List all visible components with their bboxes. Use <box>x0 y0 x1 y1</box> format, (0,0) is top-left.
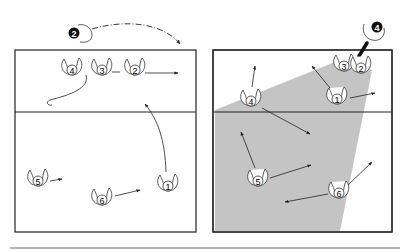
svg-text:3: 3 <box>99 66 104 76</box>
svg-text:6: 6 <box>99 196 104 206</box>
svg-text:3: 3 <box>341 62 346 72</box>
svg-text:6: 6 <box>336 189 341 199</box>
svg-text:1: 1 <box>165 182 170 192</box>
right-panel: 4 3 2 4 1 5 6 <box>213 22 392 233</box>
svg-text:5: 5 <box>35 177 40 187</box>
svg-text:4: 4 <box>69 66 74 76</box>
left-server-2: 2 <box>69 25 93 43</box>
svg-text:2: 2 <box>71 29 76 39</box>
svg-text:5: 5 <box>255 177 260 187</box>
right-server-4: 4 <box>363 22 384 41</box>
svg-text:2: 2 <box>358 64 363 74</box>
svg-text:4: 4 <box>248 97 253 107</box>
svg-text:1: 1 <box>334 95 339 105</box>
svg-text:2: 2 <box>132 66 137 76</box>
volleyball-diagram: 2 4 3 2 5 6 1 4 <box>0 0 407 251</box>
left-serve-trajectory <box>92 24 180 44</box>
svg-text:4: 4 <box>374 23 379 33</box>
left-panel: 2 4 3 2 5 6 1 <box>15 24 196 232</box>
